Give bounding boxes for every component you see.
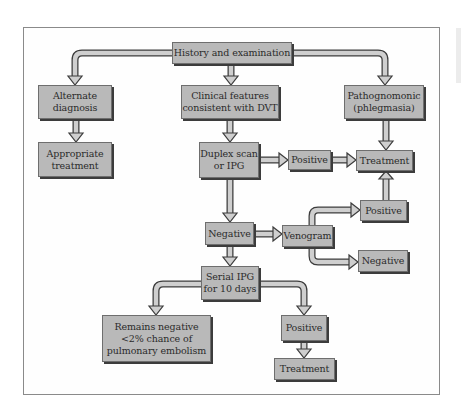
arrow-venogram-positive bbox=[312, 203, 360, 225]
node-history-examination: History and examination bbox=[172, 42, 292, 64]
arrow-duplex-negative bbox=[223, 178, 237, 222]
node-treatment-final: Treatment bbox=[274, 358, 335, 380]
arrow-alternate-appropriate bbox=[69, 119, 83, 142]
node-positive-serial: Positive bbox=[281, 315, 327, 341]
arrow-duplex-positive bbox=[259, 153, 288, 167]
arrow-serial-positive bbox=[259, 284, 311, 315]
node-positive-duplex: Positive bbox=[288, 150, 331, 170]
arrow-history-pathognomonic bbox=[292, 53, 392, 85]
arrow-venogram-negative bbox=[312, 247, 358, 269]
arrow-history-clinical bbox=[224, 64, 238, 85]
node-duplex-scan: Duplex scan or IPG bbox=[199, 142, 259, 178]
node-alternate-diagnosis: Alternate diagnosis bbox=[38, 85, 112, 119]
node-clinical-features: Clinical features consistent with DVT bbox=[181, 85, 279, 119]
arrow-pathognomonic-treatment bbox=[379, 119, 393, 150]
arrow-positive-treatment-final bbox=[297, 341, 311, 358]
arrow-negative-venogram bbox=[254, 227, 282, 241]
arrow-serial-remains bbox=[149, 284, 201, 315]
arrow-clinical-duplex bbox=[223, 119, 237, 142]
arrow-positive-treatment bbox=[331, 153, 356, 167]
arrow-positive2-treatment bbox=[379, 171, 393, 200]
node-serial-ipg: Serial IPG for 10 days bbox=[201, 266, 259, 300]
arrow-history-alternate bbox=[68, 53, 172, 85]
node-appropriate-treatment: Appropriate treatment bbox=[38, 142, 112, 177]
node-remains-negative: Remains negative <2% chance of pulmonary… bbox=[102, 315, 211, 362]
node-positive-venogram: Positive bbox=[360, 200, 407, 221]
node-negative-venogram: Negative bbox=[358, 250, 408, 272]
node-pathognomonic: Pathognomonic (phlegmasia) bbox=[344, 85, 424, 119]
node-negative-duplex: Negative bbox=[205, 222, 254, 245]
node-venogram: Venogram bbox=[282, 225, 333, 247]
arrow-negative-serial bbox=[223, 245, 237, 266]
node-treatment: Treatment bbox=[356, 150, 413, 171]
